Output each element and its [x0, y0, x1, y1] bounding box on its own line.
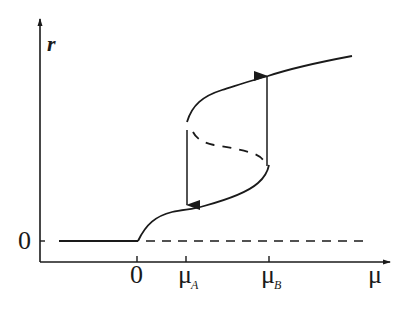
- upper-stable-branch: [187, 56, 352, 122]
- subscript-b: B: [274, 278, 281, 292]
- x-axis-label: μ: [368, 262, 382, 288]
- subscript-a: A: [191, 278, 198, 292]
- x-tick-label-mu-b: μB: [261, 262, 282, 288]
- y-axis-label: r: [47, 33, 56, 55]
- y-zero-label: 0: [18, 228, 31, 254]
- x-tick-label-zero: 0: [130, 262, 143, 288]
- bifurcation-diagram: [0, 0, 409, 312]
- lower-stable-branch: [138, 165, 269, 241]
- mu-symbol: μ: [261, 260, 275, 289]
- unstable-middle-branch: [193, 132, 264, 161]
- x-tick-label-mu-a: μA: [178, 262, 199, 288]
- mu-symbol: μ: [178, 260, 192, 289]
